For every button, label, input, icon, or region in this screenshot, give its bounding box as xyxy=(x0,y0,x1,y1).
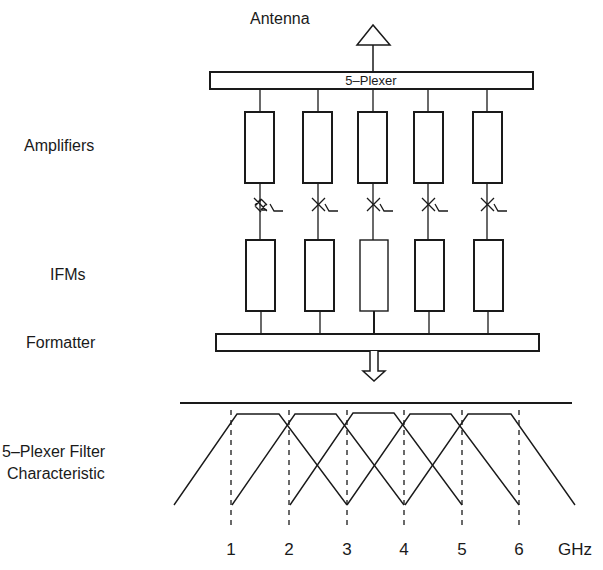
tick-label-3: 3 xyxy=(342,540,351,559)
channels xyxy=(245,89,503,333)
amplifier-block xyxy=(358,112,387,183)
filter-symbol-tails xyxy=(270,204,507,211)
axis-unit-label: GHz xyxy=(558,540,592,559)
ifm-block xyxy=(360,240,388,311)
plexer-block: 5–Plexer xyxy=(210,72,533,89)
amplifier-block xyxy=(473,112,502,183)
output-arrow-icon xyxy=(363,351,385,381)
amplifier-block xyxy=(414,112,443,183)
tick-label-6: 6 xyxy=(514,540,523,559)
ifm-block xyxy=(305,240,334,311)
amplifier-block xyxy=(245,112,274,183)
frequency-markers xyxy=(231,410,519,528)
ifm-block xyxy=(474,240,503,311)
ifm-block xyxy=(415,240,444,311)
ifm-block xyxy=(246,240,275,311)
block-diagram: 5–Plexer xyxy=(0,0,603,570)
antenna-icon xyxy=(357,25,390,71)
tick-label-4: 4 xyxy=(399,540,408,559)
channel-1 xyxy=(245,89,275,333)
tick-label-1: 1 xyxy=(226,540,235,559)
formatter-block xyxy=(216,334,539,351)
tick-label-5: 5 xyxy=(457,540,466,559)
amplifier-block xyxy=(303,112,332,183)
plexer-label: 5–Plexer xyxy=(345,73,397,88)
filter-curves xyxy=(174,413,575,505)
filter-characteristic-plot: 1 2 3 4 5 6 GHz xyxy=(174,403,592,559)
tick-label-2: 2 xyxy=(284,540,293,559)
